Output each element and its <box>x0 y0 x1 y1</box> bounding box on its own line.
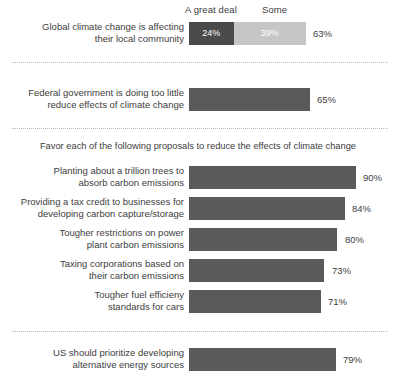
bar-value: 65% <box>317 88 336 111</box>
bar-track: 79% <box>189 348 336 371</box>
row-label: Providing a tax credit to businesses for… <box>8 196 184 219</box>
bar[interactable] <box>189 290 321 313</box>
row-label-line-1: Taxing corporations based on <box>8 258 184 270</box>
row-label-line-1: Federal government is doing too little <box>8 87 184 99</box>
bar[interactable] <box>189 197 345 220</box>
bar[interactable] <box>189 259 324 282</box>
bar[interactable] <box>189 228 337 251</box>
bar-track: 73% <box>189 259 324 282</box>
row-label: Tougher restrictions on power plant carb… <box>8 227 184 250</box>
bar-track: 71% <box>189 290 321 313</box>
bar-value: 90% <box>363 166 382 189</box>
section-divider-3 <box>12 331 388 332</box>
row-label-line-1: Tougher fuel efficieny <box>8 289 184 301</box>
bar-track: 84% <box>189 197 345 220</box>
row-label: Planting about a trillion trees to absor… <box>8 165 184 188</box>
row-label-line-1: Global climate change is affecting <box>8 21 184 33</box>
bar-track: 65% <box>189 88 310 111</box>
row-label-line-2: developing carbon capture/storage <box>8 208 184 220</box>
legend-label-some: Some <box>262 4 287 15</box>
row-label-line-2: alternative energy sources <box>8 359 184 371</box>
row-label-line-1: Tougher restrictions on power <box>8 227 184 239</box>
bar-track: 80% <box>189 228 337 251</box>
row-label: Federal government is doing too little r… <box>8 87 184 110</box>
row-label: Taxing corporations based on their carbo… <box>8 258 184 281</box>
section-divider-1 <box>12 62 388 63</box>
bar[interactable] <box>189 166 356 189</box>
row-label-line-2: reduce effects of climate change <box>8 99 184 111</box>
bar-value: 79% <box>343 348 362 371</box>
bar-segment-value-a-great-deal: 24% <box>189 22 234 45</box>
row-label: Global climate change is affecting their… <box>8 21 184 44</box>
bar[interactable] <box>189 88 310 111</box>
row-label-line-1: US should prioritize developing <box>8 347 184 359</box>
legend-label-a-great-deal: A great deal <box>185 4 237 15</box>
bar-track: 24% 39% 63% <box>189 22 306 45</box>
bar-value: 80% <box>345 228 364 251</box>
row-label-line-2: absorb carbon emissions <box>8 177 184 189</box>
row-label: US should prioritize developing alternat… <box>8 347 184 370</box>
bar-total-value: 63% <box>313 22 332 45</box>
row-label: Tougher fuel efficieny standards for car… <box>8 289 184 312</box>
row-label-line-1: Planting about a trillion trees to <box>8 165 184 177</box>
row-label-line-2: standards for cars <box>8 301 184 313</box>
bar-value: 84% <box>352 197 371 220</box>
row-label-line-1: Providing a tax credit to businesses for <box>8 196 184 208</box>
bar-segment-value-some: 39% <box>234 22 306 45</box>
bar-value: 73% <box>332 259 351 282</box>
section-divider-2 <box>12 128 388 129</box>
bar-value: 71% <box>328 290 347 313</box>
row-label-line-2: their carbon emissions <box>8 270 184 282</box>
row-label-line-2: plant carbon emissions <box>8 239 184 251</box>
row-label-line-2: their local community <box>8 33 184 45</box>
bar-track: 90% <box>189 166 356 189</box>
section-title-proposals: Favor each of the following proposals to… <box>0 141 396 151</box>
climate-opinion-bar-chart: A great deal Some Global climate change … <box>0 0 396 387</box>
bar[interactable] <box>189 348 336 371</box>
